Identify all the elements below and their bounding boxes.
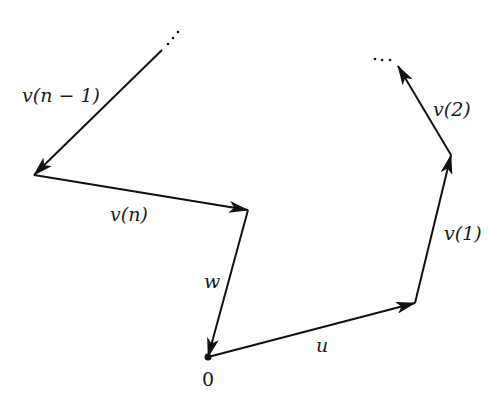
label-vn: v(n)	[110, 205, 148, 224]
origin-dot	[205, 354, 212, 361]
ellipsis-top-left	[167, 31, 180, 46]
vector-diagram	[0, 0, 503, 404]
vector-vn-minus-1-arrow	[34, 50, 162, 175]
vector-u-arrow	[208, 303, 415, 357]
label-v2: v(2)	[433, 100, 471, 119]
label-w: w	[204, 272, 220, 291]
label-v1: v(1)	[444, 224, 482, 243]
label-vn-minus-1: v(n − 1)	[22, 86, 100, 105]
label-origin: 0	[202, 370, 214, 389]
ellipsis-top-right	[374, 58, 392, 62]
label-u: u	[316, 336, 328, 355]
